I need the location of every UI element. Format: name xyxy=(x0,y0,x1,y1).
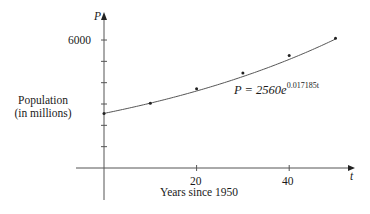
data-point xyxy=(195,87,198,90)
model-curve xyxy=(104,39,336,113)
y-axis-arrow-icon xyxy=(101,12,107,20)
data-point xyxy=(103,112,106,115)
equation-exponent: 0.017185t xyxy=(287,81,319,90)
y-axis-label: Population (in millions) xyxy=(8,94,78,120)
y-tick-label-6000: 6000 xyxy=(68,34,91,47)
equation-base: P = 2560e xyxy=(234,83,287,97)
y-axis-label-line2: (in millions) xyxy=(8,107,78,120)
model-equation: P = 2560e0.017185t xyxy=(234,84,319,98)
x-axis-symbol: t xyxy=(350,170,353,183)
x-tick-label-40: 40 xyxy=(282,175,294,188)
data-point xyxy=(241,72,244,75)
data-point xyxy=(334,37,337,40)
data-points xyxy=(103,37,338,115)
axes xyxy=(76,12,355,200)
data-point xyxy=(149,102,152,105)
data-point xyxy=(288,54,291,57)
y-axis-symbol: P xyxy=(94,10,101,23)
y-axis-label-line1: Population xyxy=(8,94,78,107)
x-axis-label: Years since 1950 xyxy=(160,186,238,199)
